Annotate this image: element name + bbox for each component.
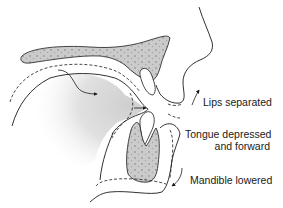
label-tongue-line1: Tongue depressed [185, 128, 270, 140]
label-lips-separated: Lips separated [203, 96, 272, 108]
label-mandible-lowered: Mandible lowered [190, 174, 272, 186]
label-tongue-line2: and forward [185, 140, 270, 152]
lips-neutral-dashed [168, 104, 182, 118]
label-tongue-depressed: Tongue depressed and forward [185, 128, 270, 152]
lips-arrow-icon [192, 90, 199, 105]
mandible-arrow-icon [172, 168, 182, 186]
